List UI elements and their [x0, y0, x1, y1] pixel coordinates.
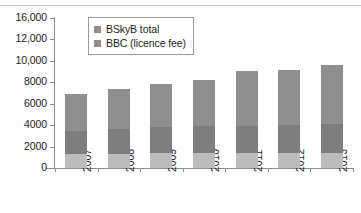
bar-column [278, 18, 300, 168]
x-axis-tick-mark [55, 168, 56, 172]
bar-segment [108, 89, 130, 128]
bar-column [193, 18, 215, 168]
x-axis-tick-mark [353, 168, 354, 172]
bar-segment [108, 129, 130, 154]
bar-segment [193, 126, 215, 153]
x-axis-tick-mark [310, 168, 311, 172]
y-axis-tick-label: 8000 [0, 75, 47, 87]
bar-segment [278, 153, 300, 168]
legend-item: BSkyB total [94, 22, 186, 36]
legend-swatch-icon [94, 26, 101, 33]
bar-segment [278, 70, 300, 125]
bar-segment [193, 153, 215, 168]
bar-segment [193, 80, 215, 126]
chart-figure: 0200040006000800010,00012,00016,000 2007… [0, 0, 361, 213]
bar-segment [236, 126, 258, 154]
y-axis-tick-label: 10,000 [0, 54, 47, 66]
legend-item-label: BBC (licence fee) [106, 37, 186, 49]
chart-legend: BSkyB total BBC (licence fee) [88, 17, 194, 55]
x-axis-tick-mark [183, 168, 184, 172]
bar-segment [65, 131, 87, 154]
bar-segment [236, 71, 258, 126]
y-axis-tick-label: 2000 [0, 140, 47, 152]
x-axis-tick-mark [268, 168, 269, 172]
x-axis-tick-mark [98, 168, 99, 172]
x-axis-tick-mark [140, 168, 141, 172]
y-axis-tick-label: 4000 [0, 118, 47, 130]
x-axis-tick-mark [225, 168, 226, 172]
y-axis-tick-label: 16,000 [0, 11, 47, 23]
bar-segment [150, 127, 172, 153]
bar-column [65, 18, 87, 168]
bar-segment [278, 125, 300, 154]
bar-segment [108, 154, 130, 168]
bar-segment [65, 94, 87, 132]
legend-swatch-icon [94, 40, 101, 47]
page-top-rule [0, 5, 361, 6]
bar-column [321, 18, 343, 168]
bar-segment [321, 124, 343, 153]
bar-column [236, 18, 258, 168]
bar-segment [321, 153, 343, 168]
y-axis-tick-label: 6000 [0, 97, 47, 109]
bar-segment [236, 153, 258, 168]
y-axis-tick-label: 0 [0, 161, 47, 173]
legend-item-label: BSkyB total [106, 23, 159, 35]
y-axis-tick-label: 12,000 [0, 32, 47, 44]
bar-segment [150, 153, 172, 168]
bar-segment [65, 154, 87, 168]
bar-segment [150, 84, 172, 128]
bar-segment [321, 65, 343, 125]
legend-item: BBC (licence fee) [94, 36, 186, 50]
